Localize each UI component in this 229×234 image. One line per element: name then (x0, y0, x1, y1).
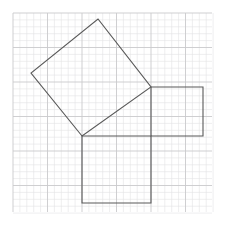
pythagorean-diagram-svg (0, 0, 229, 234)
canvas-background (0, 0, 229, 234)
figure-root (0, 0, 229, 234)
